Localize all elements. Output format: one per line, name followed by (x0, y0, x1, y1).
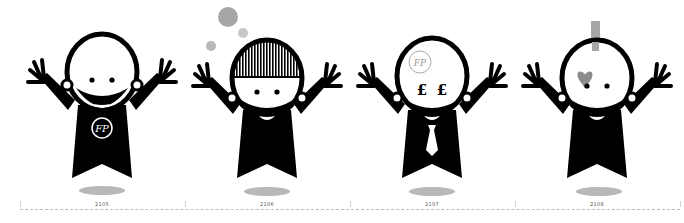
timeline-tick (350, 201, 351, 207)
timeline-tick (680, 201, 681, 207)
figure-label: 2108 (590, 201, 604, 207)
svg-text:FP: FP (94, 123, 109, 134)
figure-2105: FP (20, 0, 184, 200)
timeline-tick (20, 201, 21, 207)
figure-label: 2106 (260, 201, 274, 207)
figure-2106 (185, 0, 349, 200)
floor-shadow (409, 187, 455, 196)
svg-text:£: £ (417, 81, 427, 99)
timeline-tick (185, 201, 186, 207)
figure-label: 2105 (95, 201, 109, 207)
floor-shadow (576, 187, 622, 196)
timeline-dashed-line (20, 209, 680, 210)
mascot-icon: FP £ £ (350, 0, 514, 200)
floor-shadow (79, 186, 125, 195)
figure-label: 2107 (425, 201, 439, 207)
svg-text:FP: FP (413, 58, 427, 68)
figure-2108 (515, 0, 679, 200)
svg-text:£: £ (437, 81, 447, 99)
figure-2107: FP £ £ (350, 0, 514, 200)
floor-shadow (244, 187, 290, 196)
timeline-tick (515, 201, 516, 207)
mascot-icon: FP (20, 0, 184, 200)
mascot-icon (515, 0, 679, 200)
mascot-icon (185, 0, 349, 200)
